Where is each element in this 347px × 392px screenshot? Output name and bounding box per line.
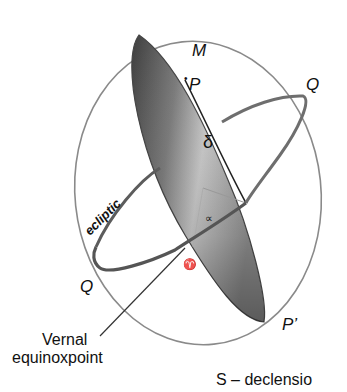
label-P-dot: • (184, 73, 188, 84)
celestial-sphere-diagram: M • P Q δ ∝ ♈ ecliptic Q P’ Vernal equin… (0, 0, 347, 392)
caption: S – declensio (216, 371, 312, 388)
label-vernal-line1: Vernal (42, 331, 87, 348)
label-M: M (192, 41, 207, 60)
label-alpha: ∝ (205, 212, 213, 224)
label-Q-top: Q (306, 75, 319, 94)
label-P-prime: P’ (282, 315, 297, 334)
label-aries: ♈ (183, 258, 197, 271)
label-vernal-line2: equinoxpoint (12, 349, 103, 366)
label-Q-bottom: Q (80, 277, 93, 296)
vernal-equinox-pointer (100, 248, 185, 336)
label-delta: δ (203, 132, 213, 152)
label-P: P (189, 75, 201, 94)
